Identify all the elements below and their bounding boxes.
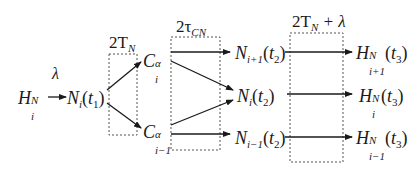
box-label-2tn: 2TN	[109, 34, 135, 54]
arrow-n-t1-to-c-i	[107, 62, 141, 90]
node-n-i-t2: Ni(t2)	[237, 87, 275, 108]
node-sub: i−1	[247, 138, 263, 150]
node-base: C	[143, 51, 155, 71]
lambda-symbol: λ	[52, 65, 59, 82]
node-base: H	[356, 43, 369, 63]
node-base: H	[356, 128, 369, 148]
node-n-i-minus-1-t2: Ni−1(t2)	[235, 129, 286, 150]
node-sup: N	[369, 135, 376, 146]
box-label-tail: + λ	[318, 12, 345, 31]
node-sup: N	[372, 93, 379, 104]
node-sub: i+1	[369, 66, 385, 77]
box-label-2tn-plus-lambda: 2TN + λ	[292, 13, 346, 33]
node-sub: i	[155, 74, 158, 85]
node-base: H	[359, 86, 372, 106]
node-base: N	[237, 86, 249, 106]
box-label-sub: CN	[191, 26, 206, 38]
arrow-n-t1-to-c-i-minus-1	[107, 103, 141, 128]
box-label-sub: N	[128, 42, 135, 54]
node-n-i-t1: Ni(t1)	[67, 89, 105, 110]
node-base: H	[18, 88, 31, 108]
arrow-label-lambda: λ	[52, 66, 59, 82]
arrow-c-i-minus-1-to-n-i	[171, 100, 233, 125]
node-sub: i+1	[247, 53, 263, 65]
node-base: N	[235, 43, 247, 63]
node-sup: N	[31, 95, 38, 106]
arrow-c-i-to-n-i	[171, 61, 233, 90]
box-2tau-cn	[171, 37, 220, 150]
node-h-i-t3: HNi(t3)	[359, 87, 404, 108]
node-base: N	[235, 128, 247, 148]
node-sub: i−1	[369, 151, 385, 162]
box-label-2tau-cn: 2τCN	[176, 18, 206, 38]
node-c-i-minus-1: Cαi−1	[143, 123, 172, 141]
node-h-i-minus-1-t3: HNi−1(t3)	[356, 129, 408, 150]
node-base: C	[143, 122, 155, 142]
box-2tn	[109, 54, 137, 135]
diagram-canvas	[0, 0, 417, 173]
box-label-main: 2T	[292, 12, 311, 31]
box-label-main: 2T	[109, 33, 128, 52]
node-base: N	[67, 88, 79, 108]
box-label-main: 2τ	[176, 17, 191, 36]
node-sub: i	[31, 111, 34, 122]
node-sup: N	[369, 50, 376, 61]
node-sup: α	[155, 58, 161, 69]
node-sub: i	[372, 109, 375, 120]
node-h-i-plus-1-t3: HNi+1(t3)	[356, 44, 408, 65]
node-sup: α	[155, 129, 161, 140]
node-sub: i−1	[155, 145, 171, 156]
node-h-i-source: HNi	[18, 89, 39, 107]
node-n-i-plus-1-t2: Ni+1(t2)	[235, 44, 286, 65]
node-c-i: Cαi	[143, 52, 162, 70]
